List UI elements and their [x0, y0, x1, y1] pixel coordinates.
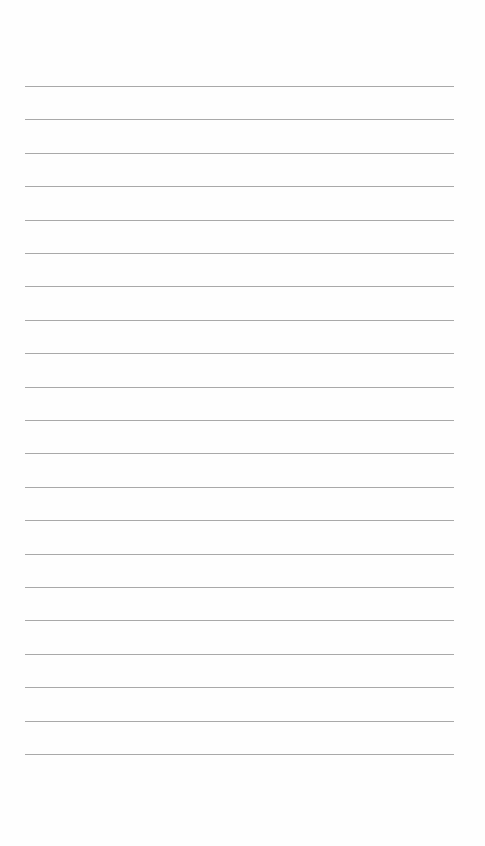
- ruled-line: [25, 587, 454, 588]
- ruled-line: [25, 721, 454, 722]
- ruled-line: [25, 654, 454, 655]
- ruled-line: [25, 286, 454, 287]
- ruled-line: [25, 487, 454, 488]
- ruled-line: [25, 420, 454, 421]
- ruled-line: [25, 620, 454, 621]
- ruled-line: [25, 353, 454, 354]
- ruled-line: [25, 86, 454, 87]
- ruled-line: [25, 253, 454, 254]
- ruled-line: [25, 119, 454, 120]
- ruled-line: [25, 320, 454, 321]
- ruled-line: [25, 520, 454, 521]
- ruled-line: [25, 153, 454, 154]
- lined-paper-page: [0, 0, 485, 846]
- ruled-line: [25, 453, 454, 454]
- ruled-line: [25, 554, 454, 555]
- ruled-line: [25, 186, 454, 187]
- ruled-line: [25, 754, 454, 755]
- ruled-line: [25, 387, 454, 388]
- ruled-line: [25, 220, 454, 221]
- ruled-line: [25, 687, 454, 688]
